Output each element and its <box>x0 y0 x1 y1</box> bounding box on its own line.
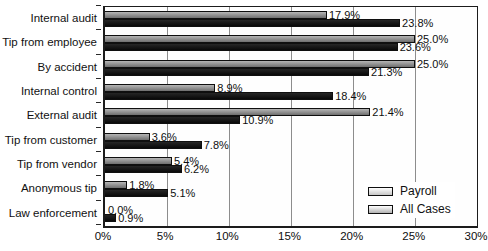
legend-item-payroll: Payroll <box>368 184 451 198</box>
bar-value-label: 21.3% <box>371 66 402 77</box>
bar-all-cases: 21.3% <box>105 68 369 76</box>
category-label: Tip from vendor <box>0 152 97 176</box>
y-ticks <box>96 6 103 225</box>
y-tick <box>96 200 101 201</box>
category-label: Internal control <box>0 79 97 103</box>
bar-value-label: 10.9% <box>242 115 273 126</box>
y-tick <box>96 175 101 176</box>
bar-payroll: 5.4% <box>105 157 172 165</box>
bar-all-cases: 6.2% <box>105 165 182 173</box>
x-axis-labels: 0%5%10%15%20%25%30% <box>103 230 476 246</box>
category-label: Internal audit <box>0 6 97 30</box>
category-label: Anonymous tip <box>0 176 97 200</box>
legend: Payroll All Cases <box>364 182 455 218</box>
y-tick <box>96 127 101 128</box>
bar-all-cases: 0.9% <box>105 214 116 222</box>
bar-payroll: 17.9% <box>105 11 327 19</box>
bar-group: 3.6%7.8% <box>105 129 477 153</box>
x-tick-label: 30% <box>464 230 487 242</box>
payroll-swatch-icon <box>368 187 393 196</box>
y-tick <box>96 224 101 225</box>
bar-all-cases: 10.9% <box>105 116 240 124</box>
y-tick <box>96 78 101 79</box>
x-tick-label: 0% <box>95 230 112 242</box>
bar-all-cases: 7.8% <box>105 141 202 149</box>
y-tick <box>96 5 101 6</box>
bar-value-label: 7.8% <box>204 139 229 150</box>
bar-value-label: 18.4% <box>335 91 366 102</box>
x-tick-label: 10% <box>216 230 239 242</box>
bar-group: 17.9%23.8% <box>105 7 477 31</box>
y-tick <box>96 29 101 30</box>
bar-payroll: 25.0% <box>105 60 415 68</box>
y-tick <box>96 54 101 55</box>
bar-group: 5.4%6.2% <box>105 153 477 177</box>
category-label: By accident <box>0 55 97 79</box>
category-label: Law enforcement <box>0 201 97 225</box>
bar-payroll: 25.0% <box>105 35 415 43</box>
bar-value-label: 21.4% <box>372 107 403 118</box>
bar-all-cases: 5.1% <box>105 189 168 197</box>
bar-payroll: 1.8% <box>105 181 127 189</box>
x-tick-label: 20% <box>340 230 363 242</box>
bar-all-cases: 18.4% <box>105 92 333 100</box>
fraud-detection-method-bar-chart: Internal auditTip from employeeBy accide… <box>0 0 488 251</box>
bar-group: 8.9%18.4% <box>105 80 477 104</box>
bar-value-label: 23.6% <box>400 42 431 53</box>
bar-group: 21.4%10.9% <box>105 104 477 128</box>
y-tick <box>96 102 101 103</box>
bar-payroll: 21.4% <box>105 108 370 116</box>
bar-value-label: 6.2% <box>184 164 209 175</box>
bar-value-label: 23.8% <box>402 18 433 29</box>
bar-group: 25.0%23.6% <box>105 31 477 55</box>
bar-value-label: 5.1% <box>170 188 195 199</box>
legend-item-all-cases: All Cases <box>368 202 451 216</box>
y-tick <box>96 151 101 152</box>
bar-value-label: 25.0% <box>417 58 448 69</box>
category-label: Tip from employee <box>0 30 97 54</box>
bar-value-label: 0.9% <box>118 212 143 223</box>
legend-label-payroll: Payroll <box>400 184 437 198</box>
category-label: External audit <box>0 103 97 127</box>
legend-label-all-cases: All Cases <box>400 202 451 216</box>
all-cases-swatch-icon <box>368 205 393 214</box>
bar-payroll: 3.6% <box>105 133 150 141</box>
bar-group: 25.0%21.3% <box>105 56 477 80</box>
category-labels: Internal auditTip from employeeBy accide… <box>0 6 97 225</box>
category-label: Tip from customer <box>0 128 97 152</box>
bar-all-cases: 23.8% <box>105 19 400 27</box>
x-tick-label: 25% <box>402 230 425 242</box>
x-tick-label: 15% <box>278 230 301 242</box>
bar-all-cases: 23.6% <box>105 43 398 51</box>
bar-payroll: 8.9% <box>105 84 215 92</box>
x-tick-label: 5% <box>157 230 174 242</box>
